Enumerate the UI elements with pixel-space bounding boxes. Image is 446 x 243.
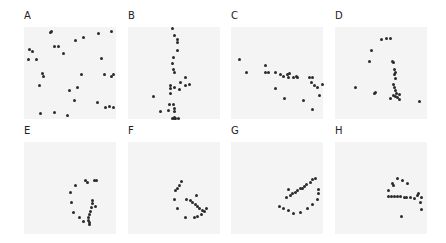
- data-point: [53, 45, 56, 48]
- data-point: [274, 87, 277, 90]
- data-point: [173, 34, 176, 37]
- data-point: [173, 71, 176, 74]
- panel-label-c: C: [231, 11, 238, 21]
- data-point: [292, 212, 295, 215]
- data-point: [282, 207, 285, 210]
- data-point: [194, 203, 197, 206]
- data-point: [173, 110, 176, 113]
- data-point: [321, 83, 324, 86]
- data-point: [78, 216, 81, 219]
- data-point: [392, 83, 395, 86]
- data-point: [178, 88, 181, 91]
- data-point: [82, 220, 85, 223]
- scatter-panel-b: [128, 27, 220, 119]
- data-point: [401, 179, 404, 182]
- data-point: [82, 36, 85, 39]
- data-point: [62, 52, 65, 55]
- data-point: [264, 71, 267, 74]
- data-point: [311, 178, 314, 181]
- data-point: [317, 192, 320, 195]
- data-point: [200, 213, 203, 216]
- data-point: [368, 60, 371, 63]
- data-point: [318, 94, 321, 97]
- data-point: [195, 194, 198, 197]
- data-point: [278, 205, 281, 208]
- data-point: [110, 30, 113, 33]
- data-point: [282, 75, 285, 78]
- data-point: [385, 37, 388, 40]
- data-point: [283, 97, 286, 100]
- data-point: [176, 207, 179, 210]
- data-point: [180, 180, 183, 183]
- data-point: [302, 99, 305, 102]
- data-point: [316, 198, 319, 201]
- data-point: [167, 109, 170, 112]
- data-point: [393, 73, 396, 76]
- data-point: [394, 77, 397, 80]
- data-point: [288, 72, 291, 75]
- data-point: [27, 58, 30, 61]
- data-point: [264, 64, 267, 67]
- data-point: [406, 182, 409, 185]
- scatter-panel-f: [128, 142, 220, 234]
- data-point: [398, 98, 401, 101]
- scatter-panel-c: [231, 27, 323, 119]
- data-point: [409, 196, 412, 199]
- data-point: [95, 179, 98, 182]
- data-point: [94, 205, 97, 208]
- data-point: [354, 86, 357, 89]
- data-point: [96, 101, 99, 104]
- data-point: [38, 84, 41, 87]
- data-point: [57, 45, 60, 48]
- data-point: [178, 184, 181, 187]
- scatter-panel-a: [24, 27, 116, 119]
- panel-label-f: F: [128, 126, 134, 136]
- data-point: [184, 216, 187, 219]
- data-point: [289, 194, 292, 197]
- data-point: [100, 57, 103, 60]
- data-point: [176, 41, 179, 44]
- data-point: [398, 93, 401, 96]
- data-point: [287, 76, 290, 79]
- data-point: [152, 95, 155, 98]
- data-point: [400, 215, 403, 218]
- data-point: [287, 188, 290, 191]
- data-point: [171, 27, 174, 30]
- data-point: [31, 50, 34, 53]
- data-point: [50, 30, 53, 33]
- data-point: [35, 58, 38, 61]
- data-point: [103, 73, 106, 76]
- data-point: [196, 215, 199, 218]
- data-point: [387, 189, 390, 192]
- panel-label-h: H: [335, 126, 343, 136]
- data-point: [90, 206, 93, 209]
- data-point: [41, 72, 44, 75]
- data-point: [74, 39, 77, 42]
- data-point: [73, 99, 76, 102]
- data-point: [380, 38, 383, 41]
- data-point: [176, 49, 179, 52]
- data-point: [172, 56, 175, 59]
- data-point: [169, 87, 172, 90]
- scatter-panel-g: [231, 142, 323, 234]
- data-point: [418, 100, 421, 103]
- data-point: [296, 76, 299, 79]
- data-point: [168, 103, 171, 106]
- data-point: [285, 196, 288, 199]
- data-point: [91, 202, 94, 205]
- data-point: [245, 71, 248, 74]
- data-point: [311, 76, 314, 79]
- data-point: [104, 106, 107, 109]
- data-point: [169, 92, 172, 95]
- data-point: [97, 32, 100, 35]
- data-point: [311, 108, 314, 111]
- data-point: [88, 223, 91, 226]
- data-point: [389, 37, 392, 40]
- data-point: [69, 191, 72, 194]
- data-point: [370, 49, 373, 52]
- data-point: [173, 117, 176, 120]
- scatter-panel-h: [335, 142, 427, 234]
- data-point: [416, 194, 419, 197]
- data-point: [392, 184, 395, 187]
- data-point: [310, 81, 313, 84]
